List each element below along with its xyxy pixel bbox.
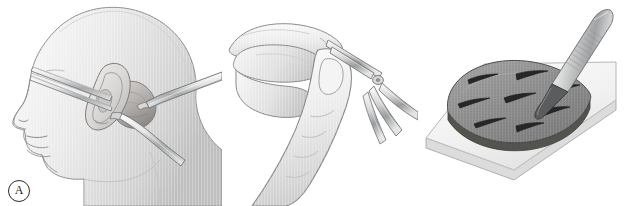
- panel-c-artwork: [418, 0, 626, 206]
- panel-a-artwork: [0, 0, 222, 206]
- scissors-handles[interactable]: [363, 83, 418, 144]
- panel-c-graft-meshing: C: [418, 0, 626, 206]
- panel-label-a: A: [8, 180, 30, 202]
- panel-a-postauricular-exposure: A: [0, 0, 222, 206]
- panel-b-artwork: [222, 0, 418, 206]
- panel-b-instrument-in-hand: B: [222, 0, 418, 206]
- surgical-technique-figure: A: [0, 0, 626, 206]
